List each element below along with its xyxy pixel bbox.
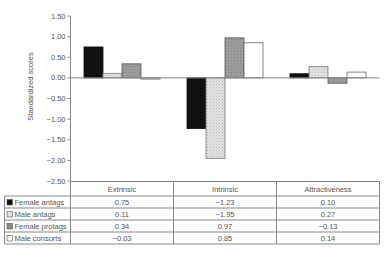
legend-swatch	[7, 200, 13, 206]
bar-female-protags-extrinsic	[122, 64, 141, 78]
table-cell: 0.85	[218, 234, 233, 243]
y-tick-label: 0.00	[51, 73, 66, 82]
y-axis-label: Standardized scores	[26, 52, 35, 121]
table-header-extrinsic: Extrinsic	[108, 185, 137, 194]
table-row: Male consorts−0.030.850.14	[7, 234, 335, 243]
table-cell: −1.95	[216, 210, 235, 219]
y-tick-label: 1.50	[51, 12, 66, 21]
bar-male-consorts-intrinsic	[244, 43, 263, 78]
bar-male-antags-attractiveness	[309, 67, 328, 78]
y-tick-label: −2.50	[47, 177, 66, 186]
y-tick-label: −2.00	[47, 156, 66, 165]
legend-swatch	[7, 212, 13, 218]
table-row: Female protags0.340.97−0.13	[7, 222, 337, 231]
legend-swatch	[7, 224, 13, 230]
table-cell: −0.13	[319, 222, 338, 231]
y-axis-title: Standardized scores	[26, 52, 35, 121]
legend-label: Male consorts	[15, 234, 62, 243]
bar-female-antags-attractiveness	[290, 74, 309, 78]
y-tick-label: −1.50	[47, 135, 66, 144]
y-tick-label: 0.50	[51, 53, 66, 62]
table-row: Male antags0.11−1.950.27	[7, 210, 335, 219]
table-row: Female antags0.75−1.230.10	[7, 198, 335, 207]
table-cell: −1.23	[216, 198, 235, 207]
data-table: ExtrinsicIntrinsicAttractivenessFemale a…	[5, 182, 380, 245]
y-tick-label: −0.50	[47, 94, 66, 103]
table-header-intrinsic: Intrinsic	[212, 185, 238, 194]
bar-male-consorts-attractiveness	[347, 72, 366, 78]
bar-female-antags-extrinsic	[84, 47, 103, 78]
table-cell: 0.34	[115, 222, 130, 231]
table-cell: 0.10	[321, 198, 336, 207]
bars	[84, 38, 366, 158]
bar-male-antags-intrinsic	[206, 78, 225, 158]
legend-label: Female protags	[15, 222, 67, 231]
bar-female-antags-intrinsic	[187, 78, 206, 129]
bar-male-antags-extrinsic	[103, 73, 122, 78]
bar-female-protags-attractiveness	[328, 78, 347, 83]
legend-label: Male antags	[15, 210, 56, 219]
table-cell: −0.03	[113, 234, 132, 243]
table-cell: 0.11	[115, 210, 129, 219]
y-tick-label: 1.00	[51, 32, 66, 41]
legend-swatch	[7, 236, 13, 242]
table-cell: 0.97	[218, 222, 233, 231]
y-axis: 1.501.000.500.00−0.50−1.00−1.50−2.00−2.5…	[47, 12, 71, 186]
y-tick-label: −1.00	[47, 115, 66, 124]
legend-label: Female antags	[15, 198, 65, 207]
table-cell: 0.27	[321, 210, 336, 219]
table-cell: 0.14	[321, 234, 336, 243]
table-cell: 0.75	[115, 198, 130, 207]
bar-female-protags-intrinsic	[225, 38, 244, 78]
bar-chart: 1.501.000.500.00−0.50−1.00−1.50−2.00−2.5…	[0, 0, 390, 253]
table-header-attractiveness: Attractiveness	[304, 185, 351, 194]
